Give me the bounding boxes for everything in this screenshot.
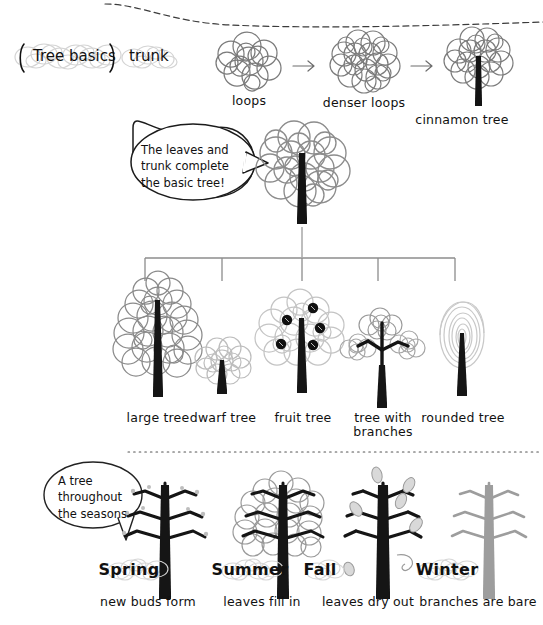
caption-branched-tree: tree with branches	[353, 411, 412, 440]
caption-rounded-tree: rounded tree	[421, 411, 504, 425]
season-caption-fall: leaves dry out	[322, 595, 414, 609]
arrow-1	[293, 61, 314, 71]
section-label-tree-basics: Tree basics	[33, 47, 116, 65]
caption-loops: loops	[232, 94, 266, 108]
season-name-spring: Spring	[99, 560, 160, 579]
variety-connector	[145, 258, 455, 281]
drawing-large-tree	[113, 271, 202, 397]
caption-dwarf-tree: dwarf tree	[190, 411, 256, 425]
caption-large-tree: large tree	[127, 411, 190, 425]
label-trunk: trunk	[129, 47, 169, 65]
illustration-layer	[0, 0, 543, 625]
drawing-winter-tree	[418, 483, 526, 599]
arrow-2	[411, 61, 432, 71]
caption-fruit-tree: fruit tree	[275, 411, 332, 425]
caption-cinnamon-tree: cinnamon tree	[415, 113, 508, 127]
drawing-fall-tree	[306, 466, 425, 599]
season-name-winter: Winter	[416, 560, 479, 579]
season-name-summer: Summer	[212, 560, 289, 579]
drawing-dwarf-tree	[195, 337, 251, 394]
season-caption-winter: branches are bare	[419, 595, 536, 609]
drawing-cinnamon-tree	[444, 27, 513, 106]
drawing-basic-tree	[256, 121, 350, 257]
season-caption-spring: new buds form	[100, 595, 196, 609]
drawing-branched-tree	[340, 308, 425, 408]
drawing-loops	[216, 32, 281, 91]
page-canvas: Tree basics trunk loops denser loops cin…	[0, 0, 543, 625]
caption-denser-loops: denser loops	[323, 96, 405, 110]
season-name-fall: Fall	[304, 560, 337, 579]
callout-basics-text: The leaves and trunk complete the basic …	[141, 142, 229, 191]
season-caption-summer: leaves fill in	[223, 595, 300, 609]
drawing-denser-loops	[330, 30, 400, 93]
top-dashed-rule	[105, 4, 543, 27]
drawing-fruit-tree	[255, 289, 344, 393]
drawing-summer-tree	[222, 471, 324, 599]
callout-seasons-text: A tree throughout the seasons	[58, 473, 127, 522]
drawing-rounded-tree	[440, 302, 484, 396]
